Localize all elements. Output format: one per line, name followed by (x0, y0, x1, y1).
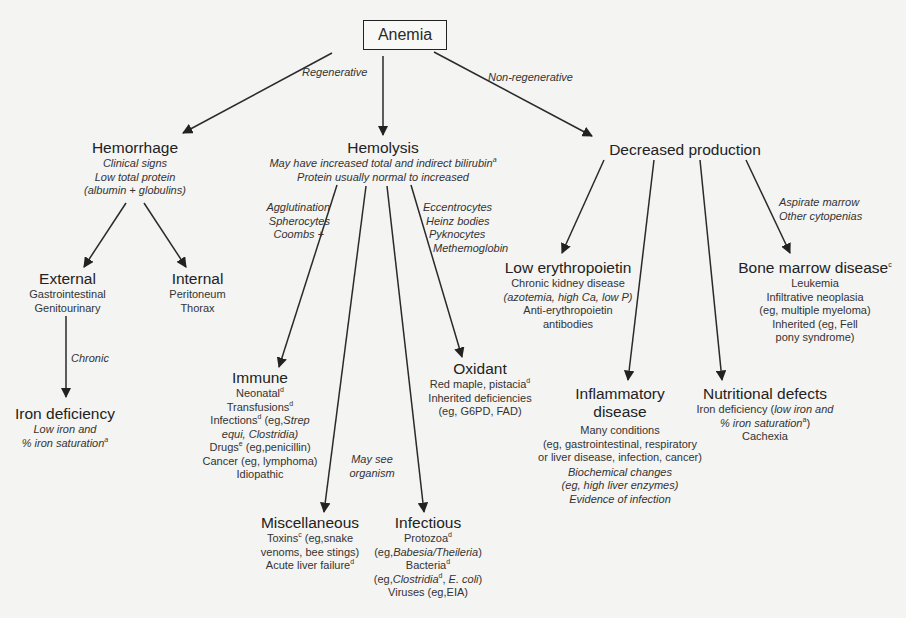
decreased-production-node[interactable]: Decreased production (590, 141, 780, 159)
edge-label-oxidant-criteria: Eccentrocytes Heinz bodies Pyknocytes Me… (423, 201, 508, 255)
edge-anemia-hemorrhage (183, 53, 332, 133)
infectious-node[interactable]: Infectious Protozoad (eg,Babesia/Theiler… (368, 514, 488, 600)
edge-label-immune-criteria: Agglutination Spherocytes Coombs + (248, 201, 330, 242)
edge-decreased-nutritional (700, 160, 722, 380)
immune-node[interactable]: Immune Neonatald Transfusionsd Infection… (195, 369, 325, 482)
edge-decreased-low-erythropoietin (562, 160, 604, 253)
internal-node[interactable]: Internal Peritoneum Thorax (160, 270, 235, 315)
external-node[interactable]: External Gastrointestinal Genitourinary (25, 270, 110, 315)
anemia-label: Anemia (378, 26, 432, 43)
hemorrhage-title: Hemorrhage (60, 139, 210, 157)
hemorrhage-node[interactable]: Hemorrhage Clinical signs Low total prot… (60, 139, 210, 198)
iron-deficiency-node[interactable]: Iron deficiency Low iron and % iron satu… (10, 405, 120, 450)
anemia-root-node[interactable]: Anemia (363, 20, 447, 50)
miscellaneous-node[interactable]: Miscellaneous Toxinsc (eg,snake venoms, … (250, 514, 370, 573)
hemolysis-title: Hemolysis (238, 139, 528, 157)
hemolysis-node[interactable]: Hemolysis May have increased total and i… (238, 139, 528, 184)
low-erythropoietin-node[interactable]: Low erythropoietin Chronic kidney diseas… (488, 259, 648, 331)
edge-hemorrhage-internal (144, 203, 186, 267)
edge-label-infectious-criteria: May see organism (344, 453, 400, 480)
edge-label-chronic: Chronic (71, 352, 109, 366)
edge-label-bone-marrow-criteria: Aspirate marrow Other cytopenias (779, 196, 862, 223)
edge-label-regenerative: Regenerative (302, 66, 367, 80)
edge-label-non-regenerative: Non-regenerative (488, 71, 573, 85)
edge-hemorrhage-external (84, 203, 126, 267)
edge-anemia-decreased-production (434, 52, 592, 136)
bone-marrow-disease-node[interactable]: Bone marrow diseasec Leukemia Infiltrati… (735, 259, 895, 345)
nutritional-defects-node[interactable]: Nutritional defects Iron deficiency (low… (690, 385, 840, 444)
decreased-production-title: Decreased production (590, 141, 780, 159)
